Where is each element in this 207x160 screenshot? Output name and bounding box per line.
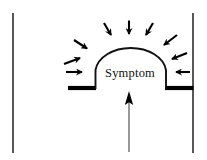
inward-arrow-left-upper <box>74 40 87 49</box>
upward-pressure-arrow <box>125 91 133 152</box>
figure-canvas: Symptom <box>0 0 207 160</box>
dome-label: Symptom <box>105 66 155 80</box>
inward-arrow-top-right <box>146 23 153 35</box>
inward-arrow-right-upper <box>164 35 177 45</box>
inward-arrow-right-lower <box>172 53 187 59</box>
inward-arrow-left-lower <box>64 58 80 64</box>
inward-arrow-top-left <box>104 23 111 35</box>
inward-arrow-group <box>64 21 190 73</box>
symptom-diagram-svg: Symptom <box>0 0 207 160</box>
